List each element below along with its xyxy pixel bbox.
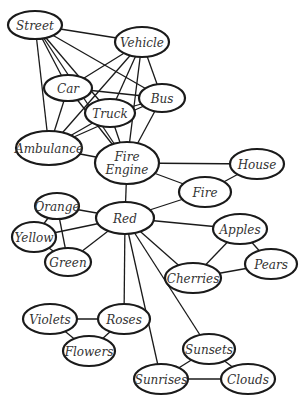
node-flowers: Flowers <box>63 336 115 366</box>
node-fire-engine: FireEngine <box>95 142 159 184</box>
node-label: Truck <box>92 107 127 121</box>
node-bus: Bus <box>139 84 185 112</box>
node-cherries: Cherries <box>165 263 221 293</box>
node-label: Yellow <box>14 231 54 245</box>
node-red: Red <box>96 202 154 234</box>
node-label: Clouds <box>227 373 269 387</box>
node-label: Green <box>49 256 86 270</box>
node-truck: Truck <box>85 99 135 127</box>
node-ambulance: Ambulance <box>14 131 83 165</box>
node-label: Sunsets <box>185 343 233 357</box>
node-label: Street <box>16 19 54 33</box>
node-label: House <box>237 158 277 172</box>
node-label: Cherries <box>167 272 220 286</box>
node-label: Fire <box>191 186 217 200</box>
node-label: Red <box>112 212 137 226</box>
node-label: Pears <box>253 258 288 272</box>
node-clouds: Clouds <box>221 364 275 394</box>
node-car: Car <box>44 75 92 101</box>
nodes-layer: StreetVehicleCarTruckBusAmbulanceFireEng… <box>8 11 297 394</box>
node-street: Street <box>8 11 62 39</box>
node-label: Car <box>57 82 80 96</box>
node-label: Ambulance <box>14 142 83 156</box>
node-sunrises: Sunrises <box>134 364 188 394</box>
semantic-network-diagram: StreetVehicleCarTruckBusAmbulanceFireEng… <box>0 0 308 407</box>
edge-red-sunrises <box>125 218 161 379</box>
node-fire: Fire <box>179 177 231 207</box>
node-orange: Orange <box>34 193 79 219</box>
node-label: Sunrises <box>135 373 188 387</box>
node-label: Bus <box>150 92 174 106</box>
node-violets: Violets <box>23 304 77 334</box>
node-label: Flowers <box>64 345 114 359</box>
node-label: Apples <box>218 223 260 237</box>
node-label: Violets <box>29 313 70 327</box>
node-green: Green <box>45 248 91 276</box>
node-yellow: Yellow <box>12 222 56 252</box>
node-label: Roses <box>105 313 142 327</box>
node-house: House <box>230 149 284 179</box>
node-roses: Roses <box>98 304 150 334</box>
node-pears: Pears <box>245 249 297 279</box>
node-label: Fire <box>113 150 139 164</box>
node-label: Orange <box>34 200 79 214</box>
node-vehicle: Vehicle <box>115 27 169 57</box>
node-label: Vehicle <box>120 36 164 50</box>
node-apples: Apples <box>213 214 267 244</box>
node-label: Engine <box>105 163 149 177</box>
node-sunsets: Sunsets <box>183 334 235 364</box>
